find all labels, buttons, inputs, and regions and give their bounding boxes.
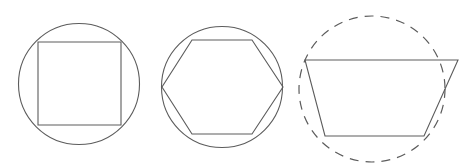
geometry-diagram — [0, 0, 465, 168]
panel-circle-with-inscribed-hexagon — [162, 27, 284, 148]
inscribed-hexagon — [162, 40, 283, 134]
panel-circle-with-inscribed-square — [19, 24, 140, 145]
inscribed-square — [38, 42, 121, 125]
dashed-circle-outline-3 — [299, 16, 445, 162]
panel-dashed-circle-with-trapezoid — [299, 16, 458, 162]
circle-outline-2 — [162, 27, 283, 148]
diagram-canvas — [0, 0, 465, 168]
